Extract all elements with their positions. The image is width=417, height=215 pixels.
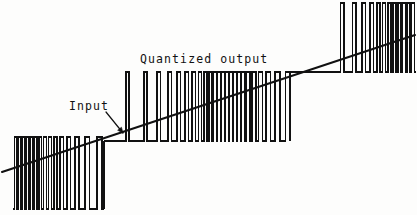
waveform-svg xyxy=(0,0,417,215)
input-label: Input xyxy=(69,99,109,113)
quantized-output-label: Quantized output xyxy=(140,52,268,66)
input-arrow xyxy=(106,112,123,133)
waveform-figure xyxy=(0,0,417,215)
